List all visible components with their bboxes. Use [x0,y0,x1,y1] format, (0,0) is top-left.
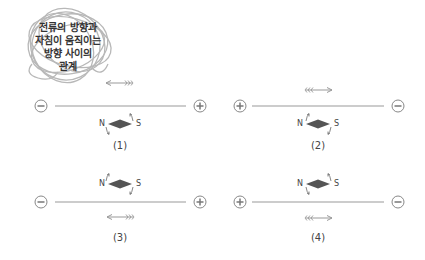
current-arrow-left-icon [106,81,133,86]
current-arrow-left-icon [107,215,134,220]
panel-label-3: (3) [105,232,135,243]
north-pole-label: N [99,119,105,128]
panel-2 [234,88,404,135]
diagram-canvas [0,0,425,260]
compass-needle-icon [306,120,330,129]
compass-needle-icon [108,180,132,189]
north-pole-label: N [99,179,105,188]
south-pole-label: S [136,179,141,188]
negative-terminal-icon [392,100,404,112]
positive-terminal-icon [234,196,246,208]
north-pole-label: N [297,119,303,128]
negative-terminal-icon [392,196,404,208]
current-arrow-right-icon [305,88,332,93]
panel-4 [234,174,404,221]
compass-needle-icon [306,180,330,189]
negative-terminal-icon [35,196,47,208]
positive-terminal-icon [194,196,206,208]
compass-needle-icon [108,120,132,129]
south-pole-label: S [334,179,339,188]
panel-label-1: (1) [105,140,135,151]
panel-label-2: (2) [303,140,333,151]
current-arrow-right-icon [305,216,332,221]
panel-1 [35,81,206,135]
positive-terminal-icon [234,100,246,112]
panel-label-4: (4) [303,232,333,243]
negative-terminal-icon [35,100,47,112]
south-pole-label: S [334,119,339,128]
north-pole-label: N [297,179,303,188]
panel-3 [35,174,206,220]
positive-terminal-icon [194,100,206,112]
south-pole-label: S [136,119,141,128]
